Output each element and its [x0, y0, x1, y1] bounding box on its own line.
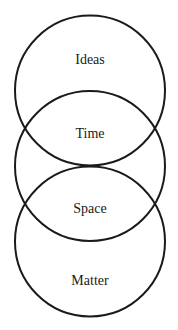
label-space: Space [0, 201, 178, 217]
label-time: Time [0, 126, 178, 142]
label-matter: Matter [0, 273, 178, 289]
label-ideas: Ideas [0, 52, 178, 68]
venn-stack-diagram: Ideas Time Space Matter [0, 0, 178, 330]
